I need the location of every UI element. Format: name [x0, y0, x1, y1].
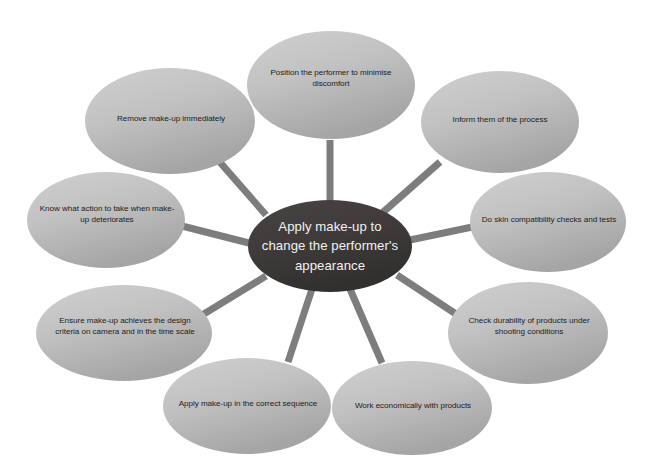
node-ellipse-position-performer[interactable]	[247, 31, 415, 139]
connector-skin-compatibility	[410, 226, 477, 240]
connector-remove-make-up	[218, 160, 266, 215]
node-ellipse-skin-compatibility[interactable]	[470, 172, 626, 272]
node-ellipse-work-economically[interactable]	[332, 361, 492, 455]
node-ellipse-design-criteria[interactable]	[36, 285, 212, 381]
connector-work-economically	[350, 289, 382, 363]
node-ellipse-inform-them[interactable]	[421, 71, 579, 173]
connector-design-criteria	[194, 276, 266, 320]
node-ellipse-remove-make-up[interactable]	[85, 68, 255, 174]
mind-map-canvas: Position the performer to minimisediscom…	[0, 0, 659, 475]
center-node-ellipse[interactable]	[248, 200, 412, 292]
connector-make-up-deteriorates	[182, 226, 249, 243]
node-ellipse-make-up-deteriorates[interactable]	[27, 172, 185, 268]
connector-check-durability	[397, 275, 462, 318]
center-node-layer	[248, 200, 412, 292]
mind-map-graphic	[0, 0, 659, 475]
connector-correct-sequence	[288, 289, 312, 362]
node-ellipse-correct-sequence[interactable]	[163, 358, 331, 454]
connector-inform-them	[381, 162, 440, 214]
node-ellipse-check-durability[interactable]	[448, 282, 608, 384]
